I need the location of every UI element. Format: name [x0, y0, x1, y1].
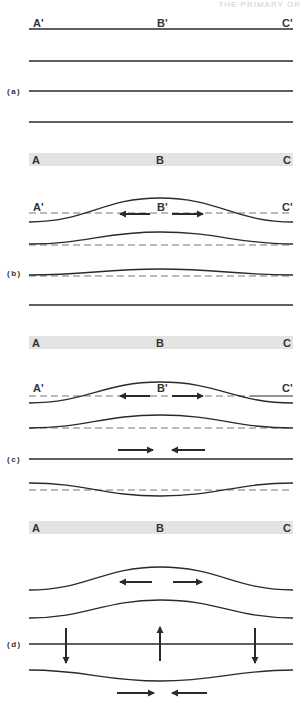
label-a: A — [32, 337, 40, 349]
label-a-prime: A' — [33, 382, 44, 394]
label-a-prime: A' — [33, 17, 44, 29]
panel-label-c: (c) — [7, 455, 21, 464]
label-a-prime: A' — [33, 201, 44, 213]
layer-curve — [29, 415, 293, 428]
label-b: B — [156, 337, 164, 349]
label-b-prime: B' — [157, 201, 168, 213]
layer-curve — [29, 670, 293, 681]
label-a: A — [32, 154, 40, 166]
layer-curve — [29, 600, 293, 618]
panel-label-b: (b) — [7, 269, 22, 278]
label-c-prime: C' — [282, 201, 293, 213]
label-c: C — [283, 522, 291, 534]
panel-label-a: (a) — [7, 87, 21, 96]
label-c: C — [283, 337, 291, 349]
label-c-prime: C' — [282, 382, 293, 394]
label-b: B — [156, 522, 164, 534]
label-b-prime: B' — [157, 382, 168, 394]
layer-curve — [29, 269, 293, 275]
label-b: B — [156, 154, 164, 166]
label-b-prime: B' — [157, 17, 168, 29]
panel-label-d: (d) — [7, 640, 22, 649]
strain-diagram: (a)A'B'C'ABC(b)A'B'C'ABC(c)A'B'C'ABC(d) — [0, 0, 301, 703]
label-c: C — [283, 154, 291, 166]
layer-curve — [29, 567, 293, 590]
label-a: A — [32, 522, 40, 534]
layer-curve — [29, 232, 293, 244]
label-c-prime: C' — [282, 17, 293, 29]
